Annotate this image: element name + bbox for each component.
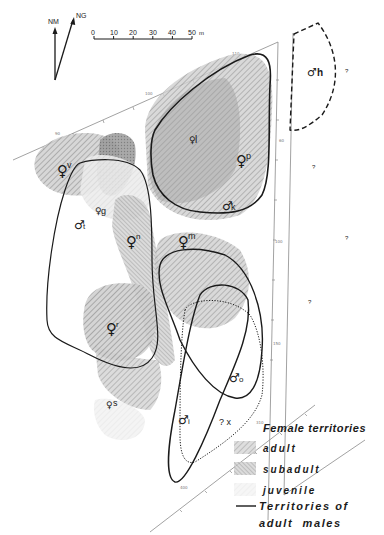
scale-tick-20: 20 xyxy=(129,29,137,36)
axis-label-100: 100 xyxy=(145,91,153,96)
legend-label-subadult: subadult xyxy=(263,464,321,475)
scale-tick-0: 0 xyxy=(91,29,95,36)
compass-nm-label: NM xyxy=(48,18,59,25)
legend-swatch-subadult xyxy=(234,462,256,475)
female-label-l: l xyxy=(195,134,197,145)
female-symbol-s: ♀ xyxy=(106,400,113,410)
axis-label-90: 90 xyxy=(55,131,61,136)
legend-label-adult: adult xyxy=(263,443,297,454)
question-mark-3: ? xyxy=(345,235,349,241)
scale-tick-50: 50 xyxy=(188,29,196,36)
male-label-i: i xyxy=(188,417,190,426)
scale-tick-10: 10 xyxy=(110,29,118,36)
male-label-k: k xyxy=(231,202,236,212)
female-label-n: n xyxy=(136,232,140,241)
question-mark-2: ? xyxy=(312,164,316,170)
female-label-s: s xyxy=(113,398,118,408)
female-label-m: m xyxy=(188,231,196,241)
territory-r xyxy=(83,283,156,360)
male-symbol-h: ♂ xyxy=(307,66,317,79)
axis-label-60: 60 xyxy=(279,138,285,143)
scale-tick-40: 40 xyxy=(168,29,176,36)
territory-m xyxy=(155,233,249,329)
territory-map: NM NG 0 10 20 30 40 50 m 90 100 1 xyxy=(0,0,384,535)
scale-tick-30: 30 xyxy=(149,29,157,36)
male-label-t: t xyxy=(83,222,86,231)
axis-label-150: 150 xyxy=(273,341,281,346)
scale-bar: 0 10 20 30 40 50 m xyxy=(91,29,204,39)
compass: NM NG xyxy=(48,12,87,80)
question-mark-4: ? xyxy=(308,299,312,305)
axis-label-100-right: 100 xyxy=(275,239,283,244)
male-label-h: h xyxy=(317,67,323,78)
female-label-g: g xyxy=(101,206,106,216)
male-label-o: o xyxy=(239,375,244,384)
legend-swatch-adult xyxy=(234,441,256,454)
compass-ng-label: NG xyxy=(76,12,87,19)
scale-unit: m xyxy=(199,30,204,36)
legend-label-juvenile: juvenile xyxy=(261,485,316,496)
female-label-p: p xyxy=(246,151,251,161)
legend-title: Female territories xyxy=(263,422,366,434)
legend-male-label-2: adult males xyxy=(259,517,342,529)
female-label-r: r xyxy=(116,320,119,329)
female-label-v: v xyxy=(67,160,72,170)
legend: Female territories adult subadult juveni… xyxy=(234,422,366,529)
question-mark-1: ? xyxy=(345,68,349,74)
unknown-label-x: ? x xyxy=(219,417,232,427)
legend-swatch-juvenile xyxy=(234,483,256,496)
legend-male-label-1: Territories of xyxy=(259,500,349,512)
ng-arrow-icon xyxy=(55,20,73,80)
axis-label-400: 400 xyxy=(180,485,188,490)
